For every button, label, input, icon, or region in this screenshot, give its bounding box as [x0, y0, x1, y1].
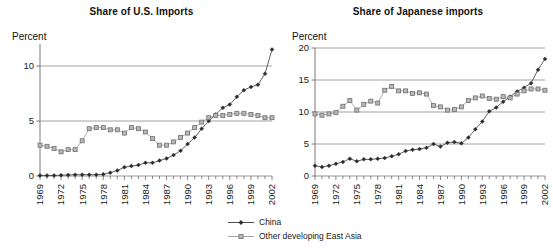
chart-panel-us-imports: Share of U.S. Imports Percent 0510196919…: [0, 0, 283, 215]
data-point-other-developing-east-asia: [438, 105, 442, 109]
figure-root: Share of U.S. Imports Percent 0510196919…: [0, 0, 553, 251]
data-point-china: [165, 156, 169, 160]
x-tick-label: 1987: [435, 184, 446, 205]
data-point-other-developing-east-asia: [459, 105, 463, 109]
x-tick-label: 1990: [182, 184, 193, 205]
data-point-china: [59, 173, 63, 177]
data-point-china: [172, 153, 176, 157]
x-tick-label: 1975: [77, 184, 88, 205]
data-point-other-developing-east-asia: [108, 128, 112, 132]
data-point-other-developing-east-asia: [270, 116, 274, 120]
data-point-other-developing-east-asia: [543, 88, 547, 92]
data-point-china: [383, 156, 387, 160]
data-point-other-developing-east-asia: [369, 99, 373, 103]
data-point-other-developing-east-asia: [390, 84, 394, 88]
x-tick-label: 1996: [498, 184, 509, 205]
data-point-other-developing-east-asia: [143, 130, 147, 134]
data-point-china: [115, 169, 119, 173]
x-tick-label: 1981: [119, 184, 130, 205]
data-point-other-developing-east-asia: [101, 126, 105, 130]
data-point-other-developing-east-asia: [214, 114, 218, 118]
data-point-china: [404, 149, 408, 153]
x-tick-label: 1984: [140, 184, 151, 205]
data-point-other-developing-east-asia: [501, 95, 505, 99]
data-point-other-developing-east-asia: [207, 116, 211, 120]
legend-item-china: China: [228, 218, 281, 227]
data-point-china: [376, 157, 380, 161]
data-point-other-developing-east-asia: [221, 114, 225, 118]
data-point-other-developing-east-asia: [200, 120, 204, 124]
data-point-other-developing-east-asia: [348, 98, 352, 102]
data-point-other-developing-east-asia: [242, 111, 246, 115]
data-point-other-developing-east-asia: [334, 111, 338, 115]
x-tick-label: 1972: [330, 184, 341, 205]
data-point-china: [348, 157, 352, 161]
data-point-china: [362, 157, 366, 161]
y-tick-label: 15: [298, 74, 309, 85]
data-point-other-developing-east-asia: [129, 126, 133, 130]
data-point-china: [136, 163, 140, 167]
data-point-other-developing-east-asia: [172, 140, 176, 144]
x-tick-label: 1969: [309, 184, 320, 205]
y-tick-label: 20: [298, 42, 309, 53]
data-point-china: [425, 146, 429, 150]
data-point-other-developing-east-asia: [122, 131, 126, 135]
data-point-china: [263, 72, 267, 76]
data-point-other-developing-east-asia: [73, 148, 77, 152]
data-point-other-developing-east-asia: [327, 112, 331, 116]
data-point-china: [341, 160, 345, 164]
x-tick-label: 1999: [245, 184, 256, 205]
data-point-other-developing-east-asia: [404, 89, 408, 93]
data-point-other-developing-east-asia: [66, 148, 70, 152]
plot-area-japanese-imports: 0510152019691972197519781981198419871990…: [283, 0, 553, 215]
data-point-china: [397, 152, 401, 156]
x-tick-label: 1987: [161, 184, 172, 205]
data-point-other-developing-east-asia: [94, 126, 98, 130]
data-point-other-developing-east-asia: [425, 92, 429, 96]
y-tick-label: 0: [29, 170, 34, 181]
y-tick-label: 5: [304, 138, 309, 149]
data-point-other-developing-east-asia: [80, 139, 84, 143]
x-tick-label: 1978: [98, 184, 109, 205]
data-point-other-developing-east-asia: [529, 87, 533, 91]
data-point-other-developing-east-asia: [150, 137, 154, 141]
y-tick-label: 0: [304, 170, 309, 181]
data-point-china: [411, 148, 415, 152]
x-tick-label: 1993: [203, 184, 214, 205]
x-tick-label: 2002: [266, 184, 277, 205]
data-point-other-developing-east-asia: [473, 96, 477, 100]
data-point-other-developing-east-asia: [115, 128, 119, 132]
data-point-china: [529, 81, 533, 85]
data-point-china: [431, 142, 435, 146]
data-point-china: [438, 145, 442, 149]
data-point-other-developing-east-asia: [235, 111, 239, 115]
x-tick-label: 1984: [414, 184, 425, 205]
data-point-other-developing-east-asia: [38, 143, 42, 147]
legend-item-other-developing-east-asia: Other developing East Asia: [228, 232, 362, 241]
data-point-other-developing-east-asia: [480, 94, 484, 98]
x-tick-label: 2002: [539, 184, 550, 205]
data-point-other-developing-east-asia: [59, 150, 63, 154]
legend-label-china: China: [259, 218, 281, 227]
data-point-china: [143, 161, 147, 165]
data-point-other-developing-east-asia: [186, 131, 190, 135]
data-point-china: [45, 173, 49, 177]
chart-panel-japanese-imports: Share of Japanese imports Percent 051015…: [283, 0, 553, 215]
series-line-other-developing-east-asia: [40, 113, 272, 152]
x-tick-label: 1981: [393, 184, 404, 205]
data-point-other-developing-east-asia: [249, 112, 253, 116]
data-point-china: [256, 83, 260, 87]
data-point-other-developing-east-asia: [431, 104, 435, 108]
x-tick-label: 1996: [224, 184, 235, 205]
data-point-other-developing-east-asia: [320, 113, 324, 117]
data-point-china: [249, 85, 253, 89]
data-point-other-developing-east-asia: [418, 91, 422, 95]
data-point-other-developing-east-asia: [376, 101, 380, 105]
data-point-china: [129, 164, 133, 168]
data-point-china: [108, 171, 112, 175]
legend: China Other developing East Asia: [0, 212, 553, 251]
data-point-other-developing-east-asia: [383, 88, 387, 92]
data-point-china: [122, 165, 126, 169]
y-tick-label: 10: [298, 106, 309, 117]
data-point-other-developing-east-asia: [228, 112, 232, 116]
